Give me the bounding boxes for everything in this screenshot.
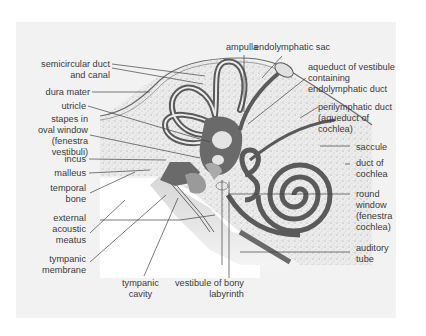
label-tympanic-cavity: tympanic cavity	[122, 278, 159, 300]
label-malleus: malleus	[54, 168, 86, 179]
label-stapes: stapes in oval window (fenestra vestibul…	[38, 114, 88, 158]
label-auditory-tube: auditory tube	[356, 243, 389, 265]
label-aqueduct-of-vestibule: aqueduct of vestibule containing endolym…	[308, 62, 395, 95]
label-temporal-bone: temporal bone	[50, 183, 86, 205]
label-incus: incus	[65, 154, 86, 165]
label-perilymphatic-duct: perilymphatic duct (aqueduct of cochlea)	[318, 102, 392, 135]
label-endolymphatic-sac: endolymphatic sac	[254, 42, 330, 53]
label-vestibule-of-bony-labyrinth: vestibule of bony labyrinth	[175, 278, 244, 300]
label-external-acoustic-meatus: external acoustic meatus	[52, 213, 86, 246]
label-semicircular-duct: semicircular duct and canal	[41, 59, 110, 81]
label-utricle: utricle	[61, 101, 86, 112]
label-round-window: round window (fenestra cochlea)	[356, 189, 392, 233]
label-dura-mater: dura mater	[46, 87, 90, 98]
label-saccule: saccule	[356, 142, 387, 153]
label-tympanic-membrane: tympanic membrane	[42, 254, 86, 276]
label-duct-of-cochlea: duct of cochlea	[356, 158, 388, 180]
